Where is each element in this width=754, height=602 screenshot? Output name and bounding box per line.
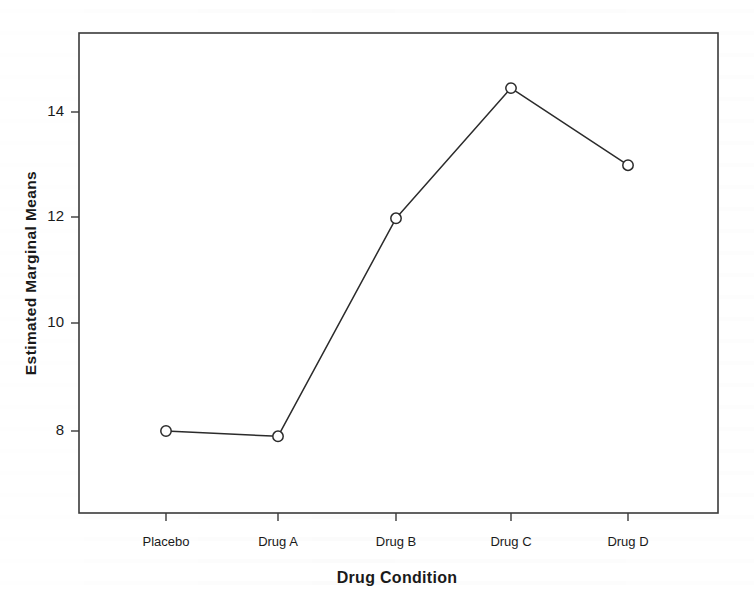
x-tick-label-drug-d: Drug D	[607, 534, 648, 549]
y-tick-label-12: 12	[47, 207, 64, 224]
y-axis-ticks	[71, 112, 79, 431]
x-tick-label-drug-c: Drug C	[490, 534, 531, 549]
x-tick-label-drug-a: Drug A	[258, 534, 298, 549]
x-tick-label-placebo: Placebo	[143, 534, 190, 549]
y-axis-title: Estimated Marginal Means	[22, 171, 39, 375]
data-point-placebo	[161, 426, 171, 436]
data-point-drug-b	[391, 213, 401, 223]
line-chart: 14 12 10 8 Estimated Marginal Means Plac…	[0, 0, 754, 602]
data-point-drug-a	[273, 431, 283, 441]
plot-panel-background	[79, 33, 718, 513]
y-tick-label-8: 8	[56, 421, 64, 438]
x-tick-label-drug-b: Drug B	[376, 534, 416, 549]
data-point-drug-c	[506, 83, 516, 93]
y-tick-label-10: 10	[47, 313, 64, 330]
chart-figure: 14 12 10 8 Estimated Marginal Means Plac…	[0, 0, 754, 602]
x-axis-title: Drug Condition	[337, 569, 458, 586]
x-axis-ticks	[166, 513, 628, 521]
data-point-drug-d	[623, 160, 633, 170]
y-tick-label-14: 14	[47, 102, 64, 119]
